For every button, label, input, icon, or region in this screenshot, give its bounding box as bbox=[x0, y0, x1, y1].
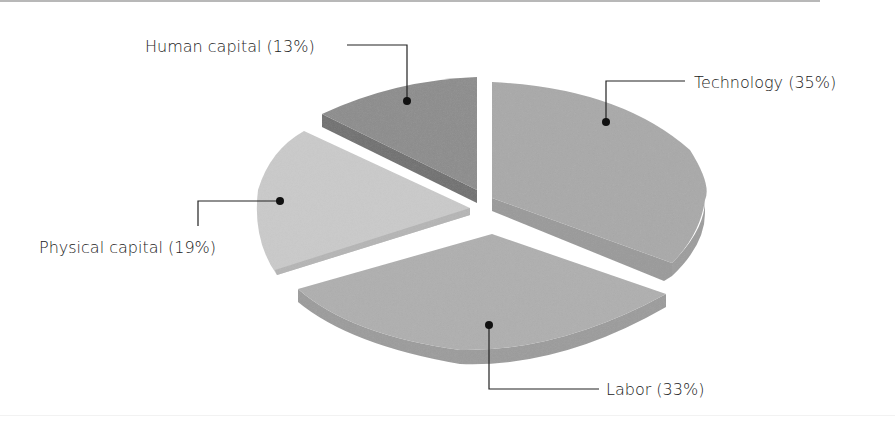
label-human-capital: Human capital (13%) bbox=[145, 37, 315, 56]
pie-chart: Human capital (13%) Technology (35%) Phy… bbox=[0, 0, 895, 424]
label-labor: Labor (33%) bbox=[606, 380, 704, 399]
label-technology: Technology (35%) bbox=[694, 73, 836, 92]
label-physical-capital: Physical capital (19%) bbox=[39, 238, 216, 257]
